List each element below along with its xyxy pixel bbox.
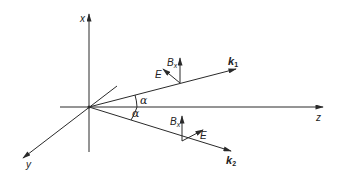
e2-label: E bbox=[200, 131, 207, 141]
y-axis bbox=[23, 86, 117, 158]
e-field-1 bbox=[163, 69, 180, 83]
k1-label: k1 bbox=[228, 56, 238, 68]
diagram-lines bbox=[0, 0, 338, 184]
angle-alpha-1: α bbox=[140, 95, 147, 106]
k1-vector bbox=[89, 69, 236, 107]
b1-label: Bx bbox=[167, 58, 177, 69]
z-axis-label: z bbox=[316, 113, 321, 123]
k2-label: k2 bbox=[226, 155, 236, 167]
x-axis-label: x bbox=[80, 14, 85, 24]
angle-arc-1 bbox=[135, 95, 137, 107]
wave-vector-diagram: x y z k1 k2 Bx E Bx E α α bbox=[0, 0, 338, 184]
angle-alpha-2: α bbox=[132, 108, 139, 119]
e1-label: E bbox=[155, 70, 162, 80]
k2-vector bbox=[89, 107, 231, 151]
b2-label: Bx bbox=[170, 117, 180, 128]
y-axis-label: y bbox=[26, 160, 31, 170]
